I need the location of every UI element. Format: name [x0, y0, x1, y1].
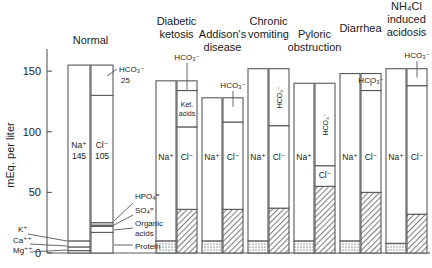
callout-organic-acids-label-2: acids — [135, 229, 154, 238]
callout-so4-label: SO₄⁼ — [135, 206, 154, 215]
column-title: Chronic — [250, 15, 288, 27]
bar-column: Na⁺145Cl⁻105 — [68, 65, 113, 253]
cation-label-na: Na⁺ — [342, 152, 357, 162]
callout-leader-so4 — [114, 215, 133, 225]
anion-bar: Cl⁻ — [223, 98, 243, 253]
callout-organic-acids-label: Organic — [135, 219, 163, 228]
column-title: Diabetic — [157, 15, 197, 27]
anion-label-ket-acids: Ket. — [181, 101, 194, 108]
anion-label-cl: Cl⁻ — [273, 152, 286, 162]
anion-label-hco3-vertical: HCO₃⁻ — [276, 86, 283, 108]
cation-label-na: Na⁺ — [204, 152, 219, 162]
gamble-diagram: 050100150 mEq. per liter Na⁺145Cl⁻105Na⁺… — [0, 0, 432, 268]
y-axis-tick-label: 100 — [23, 126, 41, 138]
anion-bar: HCO₃⁻Cl⁻ — [315, 83, 335, 253]
anion-bar: Ket.acidsCl⁻ — [177, 81, 197, 253]
callout-hco3-label: HCO₃⁻ — [220, 81, 245, 90]
anion-label-ket-acids-2: acids — [179, 110, 196, 117]
callout-leader-hpo4 — [114, 203, 133, 221]
callout-leader-ca — [30, 244, 67, 246]
anion-segment — [91, 232, 113, 253]
cation-label-na: Na⁺ — [388, 152, 403, 162]
cation-label-na: Na⁺ — [296, 152, 311, 162]
cation-segment — [202, 98, 222, 241]
bar-column: Na⁺Cl⁻ — [202, 98, 243, 253]
cation-segment — [202, 241, 222, 253]
cation-value-na: 145 — [72, 151, 86, 161]
bar-column: Na⁺HCO₃⁻Cl⁻ — [294, 83, 335, 253]
cation-segment — [340, 241, 360, 253]
column-title: acidosis — [387, 26, 427, 38]
anion-segment — [315, 186, 335, 253]
bar-column: Na⁺Cl⁻ — [340, 74, 381, 253]
anion-bar: Cl⁻ — [407, 69, 427, 253]
anion-bar: Cl⁻105 — [91, 65, 113, 253]
chart-canvas: 050100150 mEq. per liter Na⁺145Cl⁻105Na⁺… — [0, 0, 432, 268]
anion-value-cl: 105 — [95, 151, 109, 161]
bar-column: Na⁺HCO₃⁻Cl⁻ — [248, 69, 289, 253]
callout-hpo4-label: HPO₄⁼ — [135, 192, 160, 201]
anion-label-cl: Cl⁻ — [411, 152, 424, 162]
column-title: obstruction — [288, 41, 342, 53]
anion-segment — [177, 209, 197, 253]
cation-segment — [386, 243, 406, 253]
anion-segment — [223, 209, 243, 253]
cation-bar: Na⁺ — [340, 74, 360, 253]
anion-segment — [91, 226, 113, 232]
callout-hco3-value: 25 — [121, 76, 130, 85]
column-title: induced — [387, 13, 426, 25]
anion-segment — [177, 127, 197, 209]
anion-segment — [269, 126, 289, 208]
column-title: Normal — [73, 34, 108, 46]
callout-protein-label: Protein — [135, 242, 160, 251]
column-title: Diarrhea — [339, 22, 382, 34]
cation-segment — [294, 241, 314, 253]
anion-label-hco3-vertical: HCO₃⁻ — [322, 113, 329, 135]
y-axis-tick-label: 0 — [35, 247, 41, 259]
column-title: disease — [204, 41, 242, 53]
anion-segment — [407, 86, 427, 215]
anion-segment — [361, 192, 381, 253]
bar-column: Na⁺Cl⁻ — [386, 69, 427, 253]
anion-segment — [407, 214, 427, 253]
anion-label-cl: Cl⁻ — [96, 140, 109, 150]
anion-label-cl: Cl⁻ — [319, 170, 332, 180]
cation-bar: Na⁺ — [248, 69, 268, 253]
anion-bar: HCO₃⁻Cl⁻ — [269, 69, 289, 253]
anion-segment — [269, 208, 289, 253]
cation-label-na: Na⁺ — [158, 152, 173, 162]
cation-segment — [294, 83, 314, 241]
anion-segment — [91, 65, 113, 95]
callout-hco3-label: HCO₃⁻ — [404, 51, 429, 60]
anion-label-cl: Cl⁻ — [181, 152, 194, 162]
cation-bar: Na⁺ — [386, 69, 406, 253]
callout-hco3-label: HCO₃⁻ — [174, 53, 199, 62]
anion-segment — [361, 91, 381, 193]
anion-label-cl: Cl⁻ — [365, 152, 378, 162]
cation-segment — [68, 241, 90, 247]
column-titles: NormalDiabeticketosisAddison'sdiseaseChr… — [73, 0, 427, 53]
anion-segment — [223, 122, 243, 209]
callout-ca-label: Ca⁺⁺ — [13, 236, 32, 245]
bar-columns: Na⁺145Cl⁻105Na⁺Ket.acidsCl⁻Na⁺Cl⁻Na⁺HCO₃… — [68, 65, 427, 253]
anion-segment — [177, 91, 197, 127]
y-axis-tick-label: 150 — [23, 65, 41, 77]
cation-bar: Na⁺ — [202, 98, 222, 253]
callout-mg-label: Mg⁺⁺ — [13, 246, 33, 255]
column-title: NH₄Cl — [391, 0, 422, 12]
column-title: Addison's — [199, 28, 247, 40]
callout-leader-organic — [114, 228, 133, 230]
anion-bar: Cl⁻ — [361, 74, 381, 253]
cation-label-na: Na⁺ — [71, 140, 86, 150]
column-title: Pyloric — [298, 28, 332, 40]
column-title: vomiting — [248, 28, 289, 40]
cation-label-na: Na⁺ — [250, 152, 265, 162]
y-axis-title-text: mEq. per liter — [4, 122, 16, 188]
callout-k-label: K⁺ — [18, 225, 28, 234]
cation-bar: Na⁺145 — [68, 65, 90, 253]
cation-segment — [248, 241, 268, 253]
column-title: ketosis — [159, 28, 194, 40]
cation-bar: Na⁺ — [294, 83, 314, 253]
anion-label-cl: Cl⁻ — [227, 152, 240, 162]
y-axis-title: mEq. per liter — [4, 122, 16, 188]
